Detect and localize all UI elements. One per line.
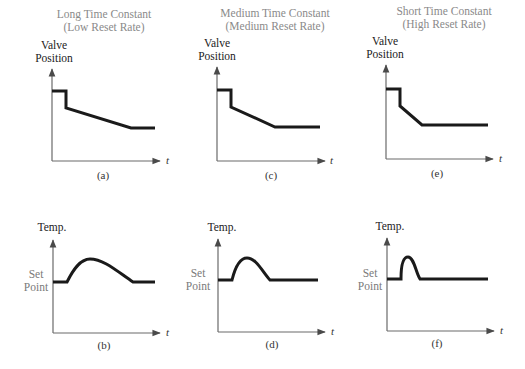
valve-position-curve [217, 90, 320, 127]
column-title-short: Short Time Constant (High Reset Rate) [396, 5, 492, 31]
ylabel-valve: Valve [372, 35, 398, 47]
x-axis-label: t [330, 154, 334, 166]
reset-rate-diagram: Long Time Constant (Low Reset Rate) Medi… [0, 0, 525, 369]
valve-position-curve [52, 91, 155, 128]
ylabel-position: Position [198, 50, 236, 62]
title-long-line2: (Low Reset Rate) [63, 21, 144, 34]
chart-e-valve-short: Valve Position t (e) [366, 35, 503, 180]
column-title-medium: Medium Time Constant (Medium Reset Rate) [220, 7, 330, 33]
setpoint-label-line2: Point [24, 281, 49, 293]
title-short-line1: Short Time Constant [396, 5, 492, 17]
x-axis-label: t [166, 154, 170, 166]
x-axis-label: t [500, 324, 504, 336]
caption-b: (b) [98, 339, 111, 352]
caption-d: (d) [266, 338, 279, 351]
caption-a: (a) [97, 169, 110, 182]
setpoint-label-line1: Set [363, 267, 379, 279]
chart-a-valve-long: Valve Position t (a) [35, 39, 170, 182]
ylabel-valve: Valve [204, 37, 230, 49]
setpoint-label-line2: Point [186, 280, 211, 292]
chart-f-temp-short: Temp. Set Point t (f) [358, 220, 504, 350]
caption-c: (c) [265, 169, 278, 182]
column-title-long: Long Time Constant (Low Reset Rate) [57, 8, 152, 34]
temperature-curve [53, 259, 155, 282]
title-medium-line2: (Medium Reset Rate) [225, 20, 324, 33]
ylabel-temp: Temp. [376, 220, 405, 233]
title-medium-line1: Medium Time Constant [220, 7, 330, 19]
temperature-curve [218, 258, 318, 280]
setpoint-label-line2: Point [358, 280, 383, 292]
temperature-curve [387, 257, 488, 279]
caption-f: (f) [432, 337, 443, 350]
chart-b-temp-long: Temp. Set Point t (b) [24, 221, 170, 352]
title-short-line2: (High Reset Rate) [402, 18, 485, 31]
caption-e: (e) [431, 167, 444, 180]
x-axis-label: t [166, 326, 170, 338]
x-axis-label: t [331, 325, 335, 337]
chart-c-valve-medium: Valve Position t (c) [198, 37, 334, 182]
chart-d-temp-medium: Temp. Set Point t (d) [186, 221, 335, 351]
ylabel-position: Position [35, 52, 73, 64]
ylabel-position: Position [366, 48, 404, 60]
title-long-line1: Long Time Constant [57, 8, 152, 21]
valve-position-curve [386, 89, 488, 125]
x-axis-label: t [499, 152, 503, 164]
ylabel-temp: Temp. [38, 221, 67, 234]
ylabel-valve: Valve [41, 39, 67, 51]
ylabel-temp: Temp. [208, 221, 237, 234]
setpoint-label-line1: Set [29, 268, 45, 280]
setpoint-label-line1: Set [191, 267, 207, 279]
